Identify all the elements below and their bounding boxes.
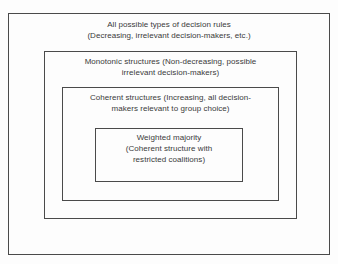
- label-coherent-structures: Coherent structures (Increasing, all dec…: [68, 92, 273, 114]
- label-all-decision-rules: All possible types of decision rules (De…: [20, 19, 318, 41]
- label-weighted-majority: Weighted majority (Coherent structure wi…: [99, 132, 239, 165]
- diagram-canvas: All possible types of decision rules (De…: [0, 0, 338, 264]
- label-monotonic-structures: Monotonic structures (Non-decreasing, po…: [52, 56, 289, 78]
